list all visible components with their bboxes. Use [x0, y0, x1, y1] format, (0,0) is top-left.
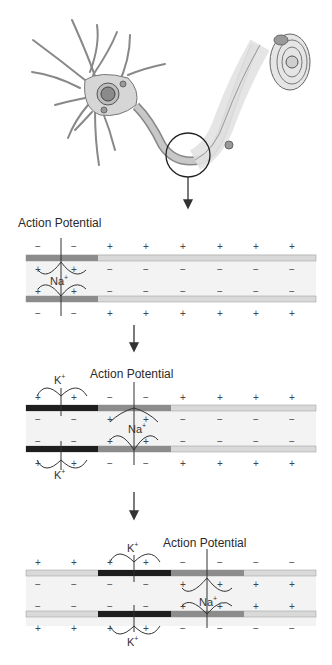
- charge-sign: −: [286, 287, 298, 297]
- na-ion-label-1: Na+: [50, 274, 68, 287]
- charge-sign: −: [68, 415, 80, 425]
- k-ion-label-3-top: K+: [127, 541, 138, 554]
- charge-sign: +: [104, 415, 116, 425]
- charge-sign: +: [177, 602, 189, 612]
- charge-sign: +: [177, 580, 189, 590]
- charge-sign: −: [140, 265, 152, 275]
- charge-sign: +: [286, 393, 298, 403]
- action-potential-label-2: Action Potential: [90, 367, 173, 381]
- charge-sign: −: [177, 287, 189, 297]
- charge-sign: −: [214, 415, 226, 425]
- charge-sign: +: [140, 437, 152, 447]
- charge-sign: +: [250, 393, 262, 403]
- charge-sign: −: [250, 415, 262, 425]
- charge-sign: −: [214, 624, 226, 634]
- charge-sign: −: [140, 393, 152, 403]
- charge-sign: +: [68, 393, 80, 403]
- k-ion-label-2-top: K+: [54, 373, 65, 386]
- charge-sign: −: [177, 265, 189, 275]
- charge-sign: −: [286, 558, 298, 568]
- charge-sign: −: [104, 393, 116, 403]
- charge-sign: +: [32, 624, 44, 634]
- charge-sign: −: [214, 265, 226, 275]
- charge-sign: −: [250, 287, 262, 297]
- charge-sign: −: [104, 459, 116, 469]
- charge-sign: −: [286, 624, 298, 634]
- action-potential-label-3: Action Potential: [163, 536, 246, 550]
- charge-sign: −: [140, 602, 152, 612]
- charge-sign: +: [140, 415, 152, 425]
- charge-sign: −: [104, 287, 116, 297]
- charge-sign: +: [250, 242, 262, 252]
- charge-sign: +: [140, 624, 152, 634]
- charge-sign: +: [32, 558, 44, 568]
- charge-sign: −: [32, 242, 44, 252]
- charge-sign: −: [140, 287, 152, 297]
- charge-sign: −: [32, 580, 44, 590]
- charge-sign: +: [250, 580, 262, 590]
- charge-sign: +: [32, 393, 44, 403]
- charge-sign: −: [286, 265, 298, 275]
- charge-sign: −: [286, 437, 298, 447]
- charge-sign: −: [177, 437, 189, 447]
- charge-sign: −: [32, 415, 44, 425]
- charge-sign: +: [177, 459, 189, 469]
- charge-sign: +: [140, 242, 152, 252]
- charge-sign: −: [32, 309, 44, 319]
- charge-sign: +: [140, 309, 152, 319]
- neuron-illustration: [32, 20, 310, 177]
- charge-sign: −: [32, 437, 44, 447]
- charge-sign: +: [68, 558, 80, 568]
- charge-sign: +: [104, 242, 116, 252]
- charge-sign: +: [104, 437, 116, 447]
- charge-sign: −: [214, 287, 226, 297]
- charge-sign: +: [32, 287, 44, 297]
- charge-sign: +: [104, 558, 116, 568]
- charge-sign: −: [250, 624, 262, 634]
- action-potential-label-1: Action Potential: [18, 216, 101, 230]
- charge-sign: −: [68, 309, 80, 319]
- charge-sign: −: [68, 602, 80, 612]
- charge-sign: +: [286, 309, 298, 319]
- charge-sign: +: [177, 242, 189, 252]
- charge-sign: −: [250, 558, 262, 568]
- charge-sign: +: [286, 602, 298, 612]
- charge-sign: +: [104, 309, 116, 319]
- charge-sign: −: [32, 602, 44, 612]
- charge-sign: +: [68, 265, 80, 275]
- charge-sign: −: [250, 437, 262, 447]
- charge-sign: +: [214, 602, 226, 612]
- charge-sign: +: [214, 309, 226, 319]
- charge-sign: −: [104, 580, 116, 590]
- charge-sign: +: [177, 393, 189, 403]
- charge-sign: +: [286, 242, 298, 252]
- charge-sign: −: [140, 459, 152, 469]
- charge-sign: +: [68, 287, 80, 297]
- charge-sign: −: [104, 602, 116, 612]
- charge-sign: −: [177, 624, 189, 634]
- charge-sign: +: [32, 265, 44, 275]
- charge-sign: +: [214, 242, 226, 252]
- diagram-artwork: [0, 0, 332, 665]
- charge-sign: +: [214, 459, 226, 469]
- charge-sign: −: [214, 558, 226, 568]
- charge-sign: +: [177, 309, 189, 319]
- charge-sign: −: [68, 437, 80, 447]
- charge-sign: +: [140, 558, 152, 568]
- charge-sign: −: [250, 265, 262, 275]
- charge-sign: +: [286, 459, 298, 469]
- charge-sign: +: [286, 580, 298, 590]
- charge-sign: −: [177, 558, 189, 568]
- k-ion-label-2-bottom: K+: [54, 468, 65, 481]
- charge-sign: −: [68, 580, 80, 590]
- charge-sign: +: [32, 459, 44, 469]
- charge-sign: −: [140, 580, 152, 590]
- charge-sign: +: [68, 624, 80, 634]
- charge-sign: +: [250, 309, 262, 319]
- charge-sign: +: [104, 624, 116, 634]
- charge-sign: +: [214, 393, 226, 403]
- charge-sign: +: [250, 602, 262, 612]
- charge-sign: +: [250, 459, 262, 469]
- charge-sign: −: [68, 242, 80, 252]
- charge-sign: −: [286, 415, 298, 425]
